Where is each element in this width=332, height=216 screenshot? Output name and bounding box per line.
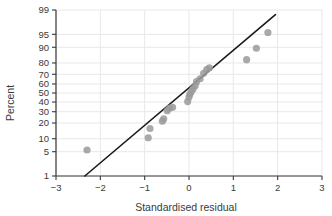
y-tick-label: 20 <box>38 117 49 128</box>
data-point <box>243 56 250 63</box>
y-tick-label: 10 <box>38 133 49 144</box>
y-tick-label: 90 <box>38 42 49 53</box>
data-point <box>169 104 176 111</box>
y-tick-label: 60 <box>38 78 49 89</box>
x-tick-label: −2 <box>95 182 106 193</box>
x-tick-label: 1 <box>231 182 236 193</box>
normal-probability-plot: 151020304050607080909599−3−2−10123 Stand… <box>0 0 332 216</box>
y-axis-label: Percent <box>4 85 16 121</box>
data-point <box>146 125 153 132</box>
y-tick-label: 1 <box>44 170 49 181</box>
data-point <box>160 115 167 122</box>
y-tick-label: 70 <box>38 69 49 80</box>
data-point <box>253 45 260 52</box>
probability-plot-figure: 151020304050607080909599−3−2−10123 Stand… <box>0 0 332 216</box>
x-tick-label: 2 <box>275 182 280 193</box>
y-tick-label: 95 <box>38 29 49 40</box>
data-point <box>206 64 213 71</box>
x-tick-label: 3 <box>319 182 324 193</box>
data-point <box>264 29 271 36</box>
x-axis-label: Standardised residual <box>135 201 237 213</box>
y-tick-label: 80 <box>38 57 49 68</box>
y-tick-label: 5 <box>44 146 49 157</box>
x-tick-label: −3 <box>51 182 62 193</box>
y-tick-label: 99 <box>38 4 49 15</box>
x-tick-label: −1 <box>139 182 150 193</box>
data-point <box>145 134 152 141</box>
data-point <box>83 146 90 153</box>
y-tick-label: 30 <box>38 106 49 117</box>
x-tick-label: 0 <box>186 182 191 193</box>
